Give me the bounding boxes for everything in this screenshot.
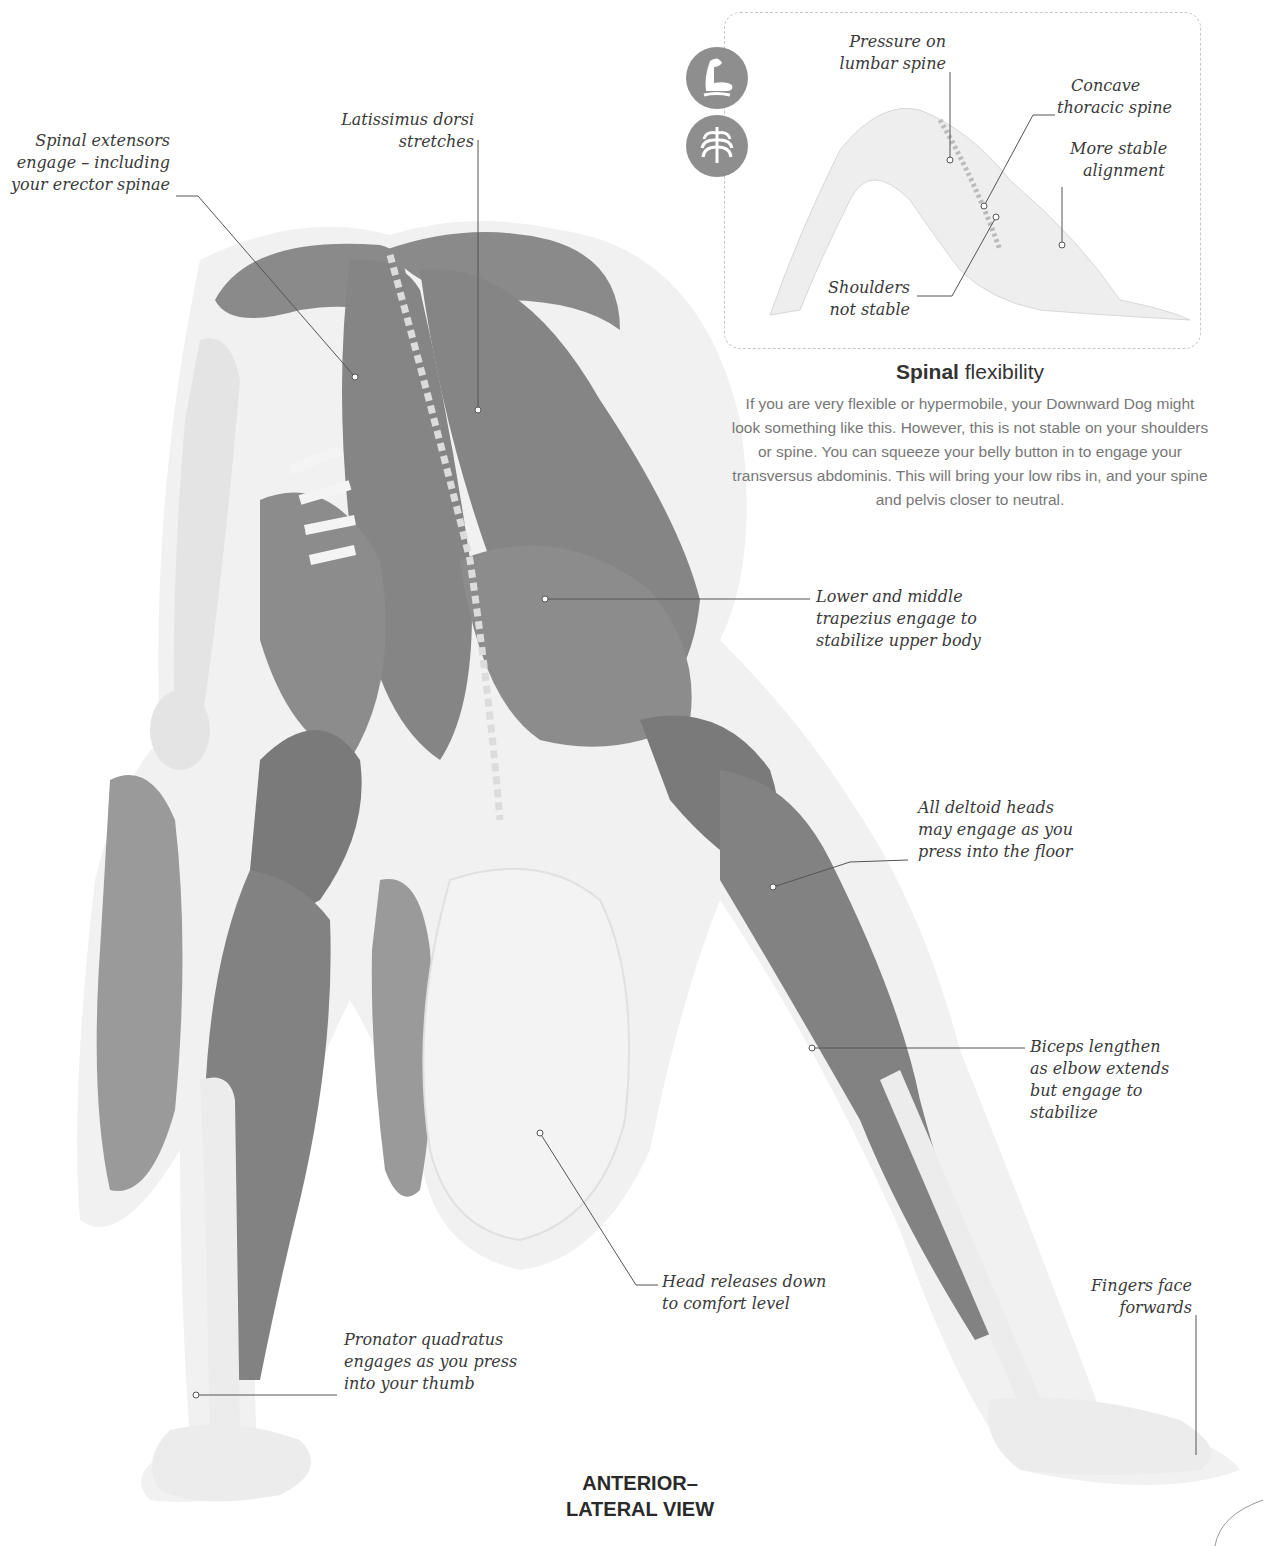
callout-biceps: Biceps lengthen as elbow extends but eng…	[1030, 1036, 1169, 1124]
panel-title: Spinal flexibility	[730, 360, 1210, 384]
callout-trapezius: Lower and middle trapezius engage to sta…	[816, 586, 981, 652]
callout-pronator-quadratus: Pronator quadratus engages as you press …	[344, 1329, 517, 1395]
callout-stable-alignment: More stable alignment	[1070, 138, 1167, 182]
callout-shoulders-not-stable: Shoulders not stable	[800, 277, 910, 321]
view-label: ANTERIOR– LATERAL VIEW	[540, 1470, 740, 1522]
callout-fingers-forward: Fingers face forwards	[1060, 1275, 1192, 1319]
callout-thoracic-spine: Concave thoracic spine	[1057, 75, 1172, 119]
anatomy-page: Pressure on lumbar spine Concave thoraci…	[0, 0, 1263, 1546]
callout-head-releases: Head releases down to comfort level	[662, 1271, 826, 1315]
panel-body-text: If you are very flexible or hypermobile,…	[730, 392, 1210, 512]
callout-latissimus-dorsi: Latissimus dorsi stretches	[300, 109, 474, 153]
callout-deltoid: All deltoid heads may engage as you pres…	[918, 797, 1073, 863]
callout-spinal-extensors: Spinal extensors engage – including your…	[10, 130, 170, 196]
callout-lumbar-spine: Pressure on lumbar spine	[800, 31, 946, 75]
